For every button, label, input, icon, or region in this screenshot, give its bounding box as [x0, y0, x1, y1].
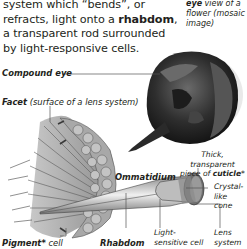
ommatidia-fan — [8, 116, 116, 238]
label-ommatidium: Ommatidium — [115, 172, 176, 182]
cuticle-term: cuticle — [213, 169, 241, 178]
label-rhabdom: Rhabdom — [100, 238, 145, 248]
cuticle-line-2: piece of cuticle* — [178, 169, 247, 179]
para-line-2-punct: , — [174, 13, 177, 26]
fly-head-image — [128, 52, 243, 152]
label-compound-eye: Compound eye — [2, 68, 72, 78]
para-line-3: a transparent rod surrounded — [3, 27, 178, 42]
facet-term: Facet — [2, 97, 27, 107]
body-paragraph: system which “bends”, or refracts, light… — [3, 0, 178, 56]
cuticle-pre: piece of — [180, 169, 213, 178]
crystal-line-1: Crystal- — [214, 182, 247, 192]
cuticle-line-1: Thick, transparent — [178, 150, 247, 169]
label-pigment-cell: Pigment* cell — [2, 238, 63, 248]
para-line-2-text: refracts, light onto a — [3, 13, 118, 26]
facet-note: (surface of a lens system) — [27, 97, 138, 107]
label-facet: Facet (surface of a lens system) — [2, 97, 139, 107]
flower-view-caption: eye view of a flower (mosaic image) — [186, 0, 247, 29]
cuticle-star: * — [241, 169, 245, 178]
lens-line-2: system — [214, 238, 241, 248]
term-rhabdom: rhabdom — [118, 13, 174, 26]
pigment-rest: cell — [46, 238, 63, 248]
label-light-sensitive-cell: Light- sensitive cell — [154, 228, 203, 247]
para-line-2: refracts, light onto a rhabdom, — [3, 13, 178, 28]
label-lens-system: Lens system — [214, 228, 241, 247]
light-line-1: Light- — [154, 228, 203, 238]
para-line-1: system which “bends”, or — [3, 0, 178, 13]
light-line-2: sensitive cell — [154, 238, 203, 248]
crystal-line-2: like cone — [214, 192, 247, 211]
para-line-4: by light-responsive cells. — [3, 42, 178, 57]
pigment-term: Pigment* — [2, 238, 46, 248]
label-cuticle: Thick, transparent piece of cuticle* — [178, 150, 247, 179]
label-crystal-cone: Crystal- like cone — [214, 182, 247, 211]
lens-line-1: Lens — [214, 228, 241, 238]
caption-bold: eye — [186, 0, 202, 8]
